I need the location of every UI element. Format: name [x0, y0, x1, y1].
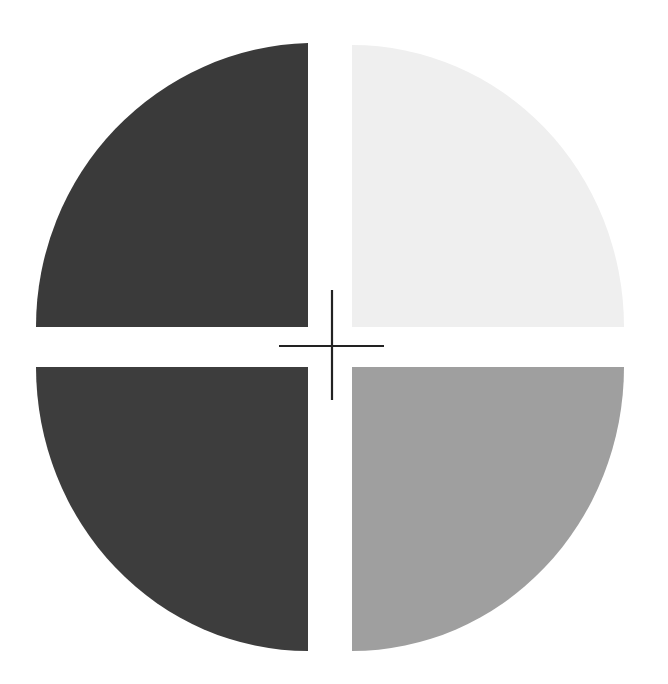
quadrant-figure — [0, 0, 668, 684]
quadrant-top-left — [36, 43, 308, 327]
quadrant-bottom-right — [352, 367, 624, 651]
quadrant-top-right — [352, 45, 624, 327]
quadrant-bottom-left — [36, 367, 308, 651]
